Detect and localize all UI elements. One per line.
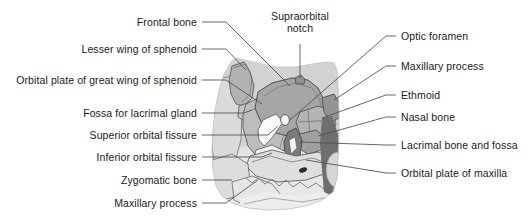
- label-ethmoid: Ethmoid: [401, 89, 440, 101]
- label-supraorbital-notch-line2: notch: [252, 22, 348, 34]
- label-orbital-plate-of-great-wing-of-sphenoid: Orbital plate of great wing of sphenoid: [16, 74, 197, 86]
- label-lacrimal-bone-and-fossa: Lacrimal bone and fossa: [401, 139, 518, 151]
- label-zygomatic-bone: Zygomatic bone: [121, 174, 197, 186]
- orbit-anatomy-figure: Frontal bone Lesser wing of sphenoid Orb…: [0, 0, 530, 224]
- label-optic-foramen: Optic foramen: [401, 30, 468, 42]
- optic-foramen: [281, 115, 290, 126]
- orbit-illustration: [210, 58, 350, 215]
- label-inferior-orbital-fissure: Inferior orbital fissure: [97, 151, 197, 163]
- label-fossa-for-lacrimal-gland: Fossa for lacrimal gland: [83, 107, 197, 119]
- lower-arch: [240, 192, 340, 214]
- label-lesser-wing-of-sphenoid: Lesser wing of sphenoid: [81, 43, 197, 55]
- label-supraorbital-notch-line1: Supraorbital: [252, 10, 348, 22]
- label-maxillary-process-upper: Maxillary process: [401, 60, 484, 72]
- label-nasal-bone: Nasal bone: [401, 111, 455, 123]
- label-maxillary-process-lower: Maxillary process: [114, 197, 197, 209]
- label-frontal-bone: Frontal bone: [137, 16, 197, 28]
- label-superior-orbital-fissure: Superior orbital fissure: [90, 129, 197, 141]
- label-orbital-plate-of-maxilla: Orbital plate of maxilla: [401, 167, 507, 179]
- label-supraorbital-notch: Supraorbital notch: [252, 10, 348, 34]
